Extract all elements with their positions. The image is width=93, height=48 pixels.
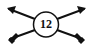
fletching-lower-left-icon (8, 33, 19, 44)
arrowhead-upper-right-icon (77, 6, 86, 14)
fletching-lower-right-icon (74, 33, 85, 44)
arrowhead-upper-left-icon (7, 6, 16, 14)
center-label: 12 (33, 11, 59, 38)
